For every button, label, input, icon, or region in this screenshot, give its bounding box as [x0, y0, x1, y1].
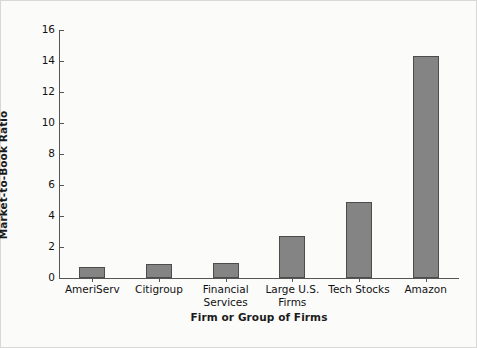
y-tick-mark [59, 185, 64, 186]
chart-figure: Market-to-Book Ratio 0246810121416 Ameri… [0, 0, 477, 348]
y-tick-mark [59, 123, 64, 124]
x-tick-mark [92, 278, 93, 282]
category-label: Large U.S. Firms [259, 283, 326, 308]
bar [146, 264, 172, 278]
y-tick-mark [59, 92, 64, 93]
y-tick-label: 10 [42, 116, 55, 128]
y-tick-label: 8 [48, 147, 55, 159]
x-tick-mark [159, 278, 160, 282]
x-tick-mark [292, 278, 293, 282]
bar [346, 202, 372, 278]
category-label: AmeriServ [59, 283, 126, 296]
y-tick-label: 12 [42, 85, 55, 97]
category-label: Amazon [392, 283, 459, 296]
x-tick-mark [426, 278, 427, 282]
y-tick-label: 16 [42, 23, 55, 35]
x-axis-title: Firm or Group of Firms [59, 311, 459, 323]
x-tick-mark [359, 278, 360, 282]
y-tick-label: 14 [42, 54, 55, 66]
category-label: Citigroup [126, 283, 193, 296]
x-tick-mark [226, 278, 227, 282]
y-tick-mark [59, 154, 64, 155]
y-tick-mark [59, 61, 64, 62]
y-tick-label: 0 [48, 271, 55, 283]
bar [279, 236, 305, 278]
category-label: Tech Stocks [326, 283, 393, 296]
y-tick-mark [59, 216, 64, 217]
y-tick-mark [59, 30, 64, 31]
y-tick-mark [59, 278, 64, 279]
bar [213, 263, 239, 279]
y-tick-mark [59, 247, 64, 248]
bar [79, 267, 105, 278]
bar [413, 56, 439, 278]
y-tick-label: 2 [48, 240, 55, 252]
category-label: Financial Services [192, 283, 259, 308]
y-tick-label: 6 [48, 178, 55, 190]
x-axis-line [59, 278, 459, 279]
y-tick-label: 4 [48, 209, 55, 221]
y-axis-title: Market-to-Book Ratio [1, 1, 31, 348]
